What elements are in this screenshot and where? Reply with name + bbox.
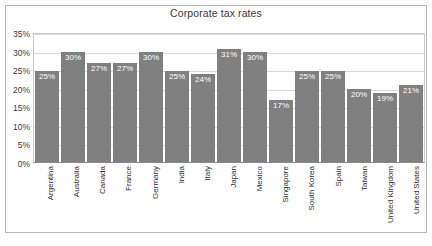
bar[interactable]: 20%	[347, 89, 371, 162]
bar-value-label: 24%	[195, 74, 211, 85]
x-axis-tick-label: South Korea	[307, 166, 316, 210]
bar-cell: 30%	[60, 34, 86, 162]
bar-value-label: 25%	[299, 71, 315, 82]
bar[interactable]: 25%	[35, 71, 59, 162]
bar-cell: 30%	[138, 34, 164, 162]
bar[interactable]: 30%	[61, 52, 85, 162]
x-axis-tick-label: Italy	[203, 166, 212, 181]
bar-value-label: 31%	[221, 49, 237, 60]
bar-cell: 27%	[86, 34, 112, 162]
bar-value-label: 21%	[403, 85, 419, 96]
bar[interactable]: 19%	[373, 93, 397, 162]
bar-cell: 27%	[112, 34, 138, 162]
plot-area: 25%30%27%27%30%25%24%31%30%17%25%25%20%1…	[33, 33, 425, 163]
x-axis-tick-label: Argentina	[46, 166, 55, 200]
x-axis-cell: Argentina	[33, 165, 59, 225]
bar-cell: 19%	[372, 34, 398, 162]
x-axis-cell: Australia	[59, 165, 85, 225]
bar-value-label: 25%	[39, 71, 55, 82]
bar[interactable]: 25%	[321, 71, 345, 162]
bar-value-label: 25%	[325, 71, 341, 82]
bar[interactable]: 17%	[269, 100, 293, 162]
y-axis-tick-label: 35%	[0, 29, 30, 39]
bar-cell: 20%	[346, 34, 372, 162]
x-axis-tick-label: United States	[412, 166, 421, 214]
x-axis-tick-label: United Kingdom	[386, 166, 395, 223]
bar-value-label: 25%	[169, 71, 185, 82]
y-axis-tick-label: 10%	[0, 122, 30, 132]
x-axis-cell: Germany	[138, 165, 164, 225]
bar[interactable]: 31%	[217, 49, 241, 162]
bar-series: 25%30%27%27%30%25%24%31%30%17%25%25%20%1…	[34, 34, 424, 162]
y-axis-tick-label: 20%	[0, 85, 30, 95]
x-axis-cell: France	[111, 165, 137, 225]
x-axis-tick-label: Mexico	[255, 166, 264, 191]
y-axis-tick-label: 30%	[0, 48, 30, 58]
bar-cell: 30%	[242, 34, 268, 162]
x-axis-cell: Canada	[85, 165, 111, 225]
bar-value-label: 30%	[65, 52, 81, 63]
chart-title: Corporate tax rates	[0, 7, 432, 19]
x-axis-tick-label: Canada	[98, 166, 107, 194]
bar-value-label: 27%	[91, 63, 107, 74]
bar-cell: 21%	[398, 34, 424, 162]
bar-value-label: 19%	[377, 93, 393, 104]
bar-value-label: 20%	[351, 89, 367, 100]
bar-cell: 25%	[164, 34, 190, 162]
bar-cell: 31%	[216, 34, 242, 162]
y-axis: 35%30%25%20%15%10%5%0%	[0, 33, 30, 164]
bar-value-label: 30%	[247, 52, 263, 63]
x-axis-tick-label: Germany	[151, 166, 160, 199]
x-axis-cell: Mexico	[242, 165, 268, 225]
bar-cell: 25%	[320, 34, 346, 162]
bar[interactable]: 27%	[87, 63, 111, 162]
x-axis-cell: Japan	[216, 165, 242, 225]
bar-value-label: 17%	[273, 100, 289, 111]
x-axis-cell: Spain	[321, 165, 347, 225]
y-axis-tick-label: 0%	[0, 159, 30, 169]
x-axis-cell: Singapore	[268, 165, 294, 225]
bar-cell: 24%	[190, 34, 216, 162]
x-axis: ArgentinaAustraliaCanadaFranceGermanyInd…	[33, 165, 425, 225]
x-axis-cell: Italy	[190, 165, 216, 225]
y-axis-tick-label: 15%	[0, 103, 30, 113]
bar[interactable]: 24%	[191, 74, 215, 162]
bar-cell: 17%	[268, 34, 294, 162]
x-axis-tick-label: Spain	[334, 166, 343, 186]
bar[interactable]: 27%	[113, 63, 137, 162]
bar-cell: 25%	[34, 34, 60, 162]
bar[interactable]: 25%	[295, 71, 319, 162]
x-axis-cell: India	[164, 165, 190, 225]
bar[interactable]: 25%	[165, 71, 189, 162]
x-axis-tick-label: Australia	[72, 166, 81, 197]
x-axis-tick-label: Taiwan	[360, 166, 369, 191]
x-axis-cell: Taiwan	[347, 165, 373, 225]
bar-value-label: 30%	[143, 52, 159, 63]
x-axis-tick-label: India	[177, 166, 186, 183]
chart-container: Corporate tax rates 35%30%25%20%15%10%5%…	[0, 0, 432, 246]
x-axis-cell: South Korea	[294, 165, 320, 225]
bar-value-label: 27%	[117, 63, 133, 74]
y-axis-tick-label: 25%	[0, 66, 30, 76]
bar[interactable]: 21%	[399, 85, 423, 162]
x-axis-tick-label: France	[124, 166, 133, 191]
bar-cell: 25%	[294, 34, 320, 162]
x-axis-cell: United States	[399, 165, 425, 225]
x-axis-cell: United Kingdom	[373, 165, 399, 225]
y-axis-tick-label: 5%	[0, 140, 30, 150]
bar[interactable]: 30%	[139, 52, 163, 162]
x-axis-tick-label: Japan	[229, 166, 238, 188]
x-axis-tick-label: Singapore	[281, 166, 290, 202]
bar[interactable]: 30%	[243, 52, 267, 162]
